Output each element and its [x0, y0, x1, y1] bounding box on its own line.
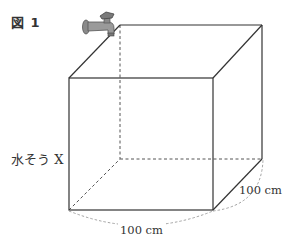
hidden-edges — [69, 25, 262, 210]
dimension-arcs — [69, 159, 263, 226]
front-face — [69, 78, 213, 210]
visible-edges — [69, 25, 262, 210]
cube-diagram — [0, 0, 292, 242]
width-dimension-label: 100 cm — [118, 223, 165, 237]
hidden-edge-bottom-left-depth — [69, 159, 120, 210]
faucet-icon — [83, 12, 115, 36]
depth-dimension-label: 100 cm — [239, 183, 282, 197]
edge-top-right-depth — [213, 25, 262, 78]
